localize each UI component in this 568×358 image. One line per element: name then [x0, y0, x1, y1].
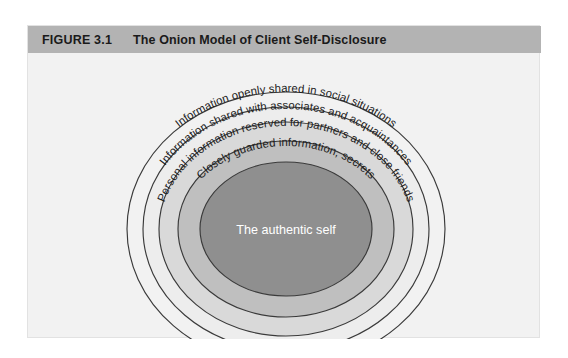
figure-header-bar: FIGURE 3.1 The Onion Model of Client Sel…: [28, 26, 541, 53]
onion-model-svg: Information openly shared in social situ…: [28, 53, 541, 339]
figure-number: FIGURE 3.1: [42, 33, 112, 47]
onion-diagram: Information openly shared in social situ…: [28, 53, 541, 339]
core-label: The authentic self: [236, 223, 336, 237]
figure-title: The Onion Model of Client Self-Disclosur…: [133, 33, 386, 47]
figure-container: FIGURE 3.1 The Onion Model of Client Sel…: [27, 25, 540, 338]
